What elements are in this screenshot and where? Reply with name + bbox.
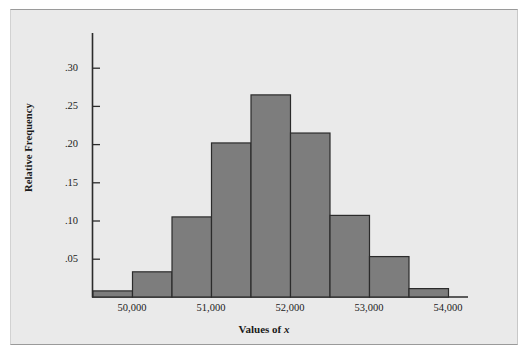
histogram-bar	[330, 215, 370, 297]
histogram-plot: Relative Frequency .30 .25 .20 .15 .10 .…	[0, 0, 528, 361]
histogram-bar	[409, 289, 449, 297]
x-axis-title-variable: x	[284, 323, 290, 335]
histogram-bar	[370, 257, 410, 297]
x-axis-title-text: Values of	[239, 323, 284, 335]
histogram-bar	[251, 95, 291, 297]
histogram-bar	[212, 143, 252, 297]
x-axis-title: Values of x	[0, 323, 528, 335]
y-axis-ticks	[93, 68, 100, 259]
histogram-bar	[291, 133, 331, 297]
histogram-bar	[172, 217, 212, 297]
histogram-bar	[133, 272, 173, 297]
histogram-bar	[93, 291, 133, 297]
histogram-bars	[93, 95, 449, 297]
chart-svg	[0, 0, 528, 361]
